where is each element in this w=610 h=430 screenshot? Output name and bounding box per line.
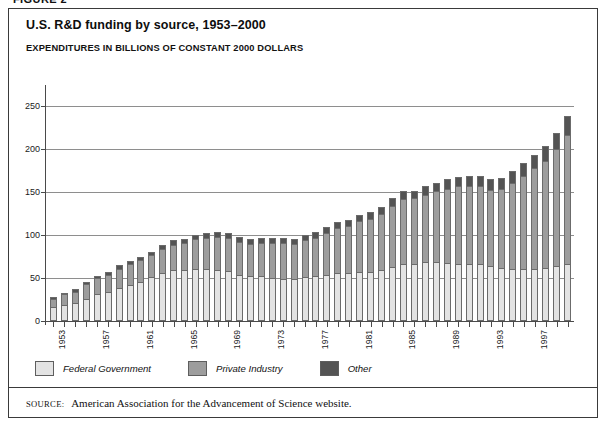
bar [105,272,112,321]
x-axis-line [45,321,574,322]
bar-segment [466,264,473,321]
bar-segment [564,264,571,321]
x-tick-label: 1977 [320,330,330,349]
bar-segment [258,276,265,321]
bar [83,282,90,321]
bar [367,212,374,321]
bar [61,293,68,321]
x-tick-mark [393,322,394,327]
x-tick-label: 1969 [232,330,242,349]
bar-segment [181,243,188,270]
x-tick-mark [196,322,197,327]
bar-segment [280,279,287,321]
figure-caption: FIGURE 2 [13,0,67,5]
bar-segment [170,270,177,321]
bar-segment [61,294,68,304]
bar-segment [94,294,101,321]
bar [334,222,341,321]
bar [203,233,210,321]
bar [72,289,79,321]
bar-segment [542,268,549,321]
x-tick-mark [97,322,98,327]
bar-segment [302,277,309,321]
bar-segment [433,183,440,192]
y-tick-mark [41,235,46,236]
bar-segment [83,299,90,321]
y-tick-label: 0 [35,316,40,326]
x-tick-label: 1985 [407,330,417,349]
bar-segment [455,264,462,321]
bar-segment [455,186,462,263]
bar [378,207,385,321]
gridline [45,235,574,236]
bar-segment [148,277,155,321]
bar-segment [258,243,265,276]
bar [269,238,276,321]
x-tick-label: 1981 [364,330,374,349]
bar-segment [422,186,429,195]
bar-segment [323,233,330,274]
bar-segment [312,276,319,321]
x-tick-mark [371,322,372,327]
bar [509,171,516,321]
bar [247,239,254,321]
x-tick-mark [130,322,131,327]
x-tick-mark [316,322,317,327]
bar-segment [389,267,396,321]
bar [466,176,473,321]
bar [345,220,352,321]
x-tick-mark [294,322,295,327]
bar [487,179,494,321]
x-tick-mark [272,322,273,327]
x-tick-mark [535,322,536,327]
bar-segment [159,249,166,273]
x-tick-mark [75,322,76,327]
x-tick-mark [207,322,208,327]
legend-label: Federal Government [63,363,151,374]
bar-segment [291,279,298,321]
x-tick-mark [458,322,459,327]
bar [531,155,538,321]
bar [323,227,330,321]
bar [291,239,298,321]
bar-segment [137,260,144,281]
y-tick-mark [41,321,46,322]
bar-segment [291,244,298,279]
chart-legend: Federal GovernmentPrivate IndustryOther [35,361,409,376]
bar-segment [422,195,429,262]
bar-segment [444,179,451,188]
bar [116,265,123,321]
bar-segment [542,146,549,161]
bar-segment [444,263,451,321]
bar-segment [531,155,538,169]
bar [553,133,560,321]
bar [312,232,319,321]
bar-segment [181,270,188,321]
bar-segment [105,275,112,292]
bar [181,239,188,321]
bar [498,178,505,321]
bar-segment [553,133,560,149]
bar-segment [411,191,418,199]
bar [225,233,232,321]
bar-segment [247,276,254,321]
bar-segment [105,292,112,321]
bar-segment [214,237,221,270]
x-tick-mark [568,322,569,327]
bar [94,276,101,321]
bar-segment [553,149,560,266]
y-tick-label: 150 [25,187,40,197]
bar-segment [531,168,538,268]
bar [214,232,221,321]
x-tick-mark [546,322,547,327]
bar-segment [345,273,352,321]
x-tick-mark [218,322,219,327]
x-tick-mark [305,322,306,327]
x-tick-mark [163,322,164,327]
bar-segment [378,214,385,270]
x-tick-mark [403,322,404,327]
bar-segment [170,245,177,271]
x-tick-mark [261,322,262,327]
x-tick-mark [360,322,361,327]
bar-segment [477,186,484,264]
